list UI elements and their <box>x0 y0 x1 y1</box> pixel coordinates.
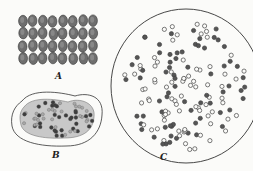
cell <box>229 53 233 57</box>
cell <box>173 76 177 80</box>
cell <box>177 109 181 113</box>
cell <box>55 134 59 138</box>
cell <box>199 32 203 36</box>
cell <box>139 101 143 105</box>
cell <box>64 114 68 118</box>
cell <box>208 139 212 143</box>
cell <box>73 102 76 105</box>
colony-outline-c <box>111 9 253 163</box>
cell <box>196 44 200 48</box>
cell <box>38 121 42 125</box>
cell <box>182 100 186 104</box>
cell <box>74 110 78 114</box>
cell-highlight <box>90 42 94 48</box>
label-a: A <box>54 71 62 81</box>
cell <box>194 105 198 109</box>
cell <box>163 125 167 129</box>
cell <box>162 27 166 31</box>
cell <box>227 84 231 88</box>
cell <box>228 59 232 63</box>
cell <box>47 108 50 111</box>
cell <box>205 93 209 97</box>
cell <box>210 110 214 114</box>
cell <box>234 77 238 81</box>
cell <box>164 85 168 89</box>
cell <box>173 84 177 88</box>
label-b: B <box>51 150 60 160</box>
cell <box>169 134 173 138</box>
cell <box>198 133 202 137</box>
cell <box>194 85 198 89</box>
cell <box>168 140 172 144</box>
cell <box>175 33 179 37</box>
cell <box>221 90 225 94</box>
cell-highlight <box>20 43 24 49</box>
cell <box>90 119 94 123</box>
cell <box>183 127 187 131</box>
cell <box>208 65 212 69</box>
cell-highlight <box>20 17 24 23</box>
cell <box>79 114 82 117</box>
cell <box>164 70 168 74</box>
cell <box>220 124 224 128</box>
cell <box>70 116 74 120</box>
cell <box>140 127 144 131</box>
cell <box>195 67 199 71</box>
cell-highlight <box>40 17 44 23</box>
cell-highlight <box>80 30 84 36</box>
cell <box>157 99 161 103</box>
cell <box>85 120 88 123</box>
cell <box>55 104 59 108</box>
cell <box>205 35 209 39</box>
cell-highlight <box>31 55 35 61</box>
cell <box>165 95 169 99</box>
cell <box>226 117 230 121</box>
cell <box>38 125 42 129</box>
cell <box>186 74 190 78</box>
cell <box>130 63 134 67</box>
cell <box>51 118 54 121</box>
cell <box>223 129 227 133</box>
cell <box>181 58 185 62</box>
cell <box>206 114 210 118</box>
cell-highlight <box>20 54 24 60</box>
cell <box>124 77 128 81</box>
cell-highlight <box>50 17 54 23</box>
cell <box>220 96 224 100</box>
cell <box>241 76 245 80</box>
cell-highlight <box>40 29 44 35</box>
cell <box>194 133 198 137</box>
cell <box>241 96 245 100</box>
cell <box>186 65 190 69</box>
cell <box>135 55 139 59</box>
label-c: C <box>160 152 168 162</box>
cell <box>85 109 88 112</box>
cell <box>157 42 161 46</box>
cell <box>168 52 172 56</box>
cell <box>88 113 92 117</box>
cell <box>74 122 78 126</box>
cell <box>34 117 37 120</box>
cell <box>141 68 145 72</box>
cell <box>60 134 64 138</box>
cell-highlight <box>30 17 34 23</box>
cell <box>167 65 171 69</box>
cell <box>57 115 61 119</box>
cell <box>222 44 226 48</box>
cell <box>53 113 57 117</box>
cell <box>171 38 175 42</box>
cell-highlight <box>60 54 64 60</box>
cell <box>84 114 88 118</box>
cell <box>133 72 137 76</box>
cell <box>228 108 232 112</box>
cell <box>162 118 166 122</box>
cell <box>168 60 172 64</box>
cell-highlight <box>50 42 54 48</box>
cell <box>193 147 197 151</box>
cell <box>141 114 145 118</box>
cell <box>204 103 208 107</box>
cell <box>188 83 192 87</box>
cell <box>155 60 159 64</box>
cell-highlight <box>90 54 94 60</box>
cell <box>234 113 238 117</box>
